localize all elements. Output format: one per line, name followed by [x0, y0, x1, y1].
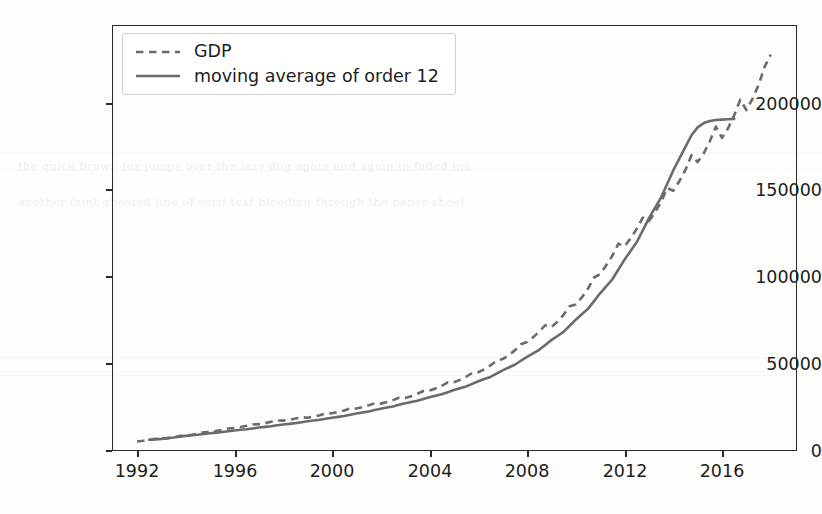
legend-label-gdp: GDP — [194, 43, 232, 61]
solid-line-icon — [135, 69, 181, 83]
legend-item-moving-average: moving average of order 12 — [135, 68, 439, 86]
legend-label-moving-average: moving average of order 12 — [194, 68, 439, 86]
dashed-line-icon — [135, 45, 181, 59]
series-line-moving-average — [149, 119, 734, 440]
gdp-moving-average-figure: 200000 150000 100000 50000 0 1992 1996 2… — [0, 0, 822, 514]
chart-legend: GDP moving average of order 12 — [122, 33, 456, 95]
legend-item-gdp: GDP — [135, 43, 439, 61]
series-group — [137, 55, 771, 442]
series-line-gdp — [137, 55, 771, 442]
